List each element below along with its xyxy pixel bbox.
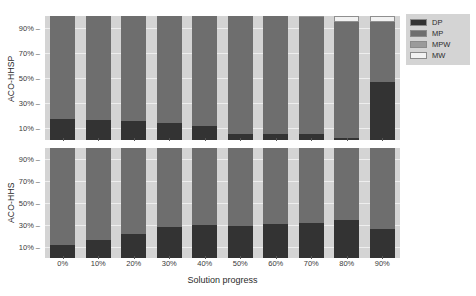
x-tick: 20% [121, 259, 146, 268]
legend-label: DP [432, 18, 442, 27]
legend-label: MP [432, 29, 443, 38]
stacked-bar[interactable] [370, 16, 395, 140]
bar-segment-mp [50, 148, 75, 245]
x-tick: 50% [228, 259, 253, 268]
x-tick-label: 50% [228, 259, 253, 268]
y-tick-label: 70%– [19, 177, 40, 186]
stacked-bar[interactable] [299, 148, 324, 258]
bar-segment-dp [157, 227, 182, 258]
legend-swatch-icon [410, 19, 427, 26]
bar-segment-dp [228, 226, 253, 258]
chart-figure: ACO-HHSP 90%–70%–50%–30%–10%– 0%10%20%30… [0, 0, 476, 296]
y-tick-label: 10%– [19, 243, 40, 252]
x-tick-label: 10% [86, 259, 111, 268]
x-tick-label: 80% [334, 259, 359, 268]
legend-item-mpw[interactable]: MPW [410, 39, 467, 50]
legend-swatch-icon [410, 41, 427, 48]
bar-segment-dp [121, 234, 146, 258]
x-tick: 90% [370, 259, 395, 268]
legend-swatch-icon [410, 52, 427, 59]
panel-aco-hhsp [45, 16, 400, 140]
stacked-bar[interactable] [228, 148, 253, 258]
bar-segment-mp [334, 148, 359, 220]
bar-segment-dp [370, 82, 395, 140]
x-tick-mark [169, 138, 170, 141]
x-tick-label: 0% [50, 259, 75, 268]
x-tick-mark [382, 138, 383, 141]
bar-segment-mp [86, 16, 111, 120]
bar-segment-mp [334, 22, 359, 137]
bar-segment-mp [370, 22, 395, 82]
stacked-bar[interactable] [334, 16, 359, 140]
legend-label: MPW [432, 40, 450, 49]
x-tick-mark [205, 138, 206, 141]
x-tick-mark [240, 138, 241, 141]
bar-group-bottom [45, 148, 400, 258]
x-tick-mark [134, 256, 135, 259]
stacked-bar[interactable] [299, 16, 324, 140]
bar-segment-mp [86, 148, 111, 240]
stacked-bar[interactable] [50, 16, 75, 140]
stacked-bar[interactable] [370, 148, 395, 258]
bar-segment-dp [370, 229, 395, 258]
y-axis-ticks-top: 90%–70%–50%–30%–10%– [2, 16, 40, 140]
stacked-bar[interactable] [228, 16, 253, 140]
plot-area-top [45, 16, 400, 140]
stacked-bar[interactable] [86, 148, 111, 258]
bar-segment-mp [157, 16, 182, 123]
legend-item-dp[interactable]: DP [410, 17, 467, 28]
x-tick: 40% [192, 259, 217, 268]
stacked-bar[interactable] [192, 16, 217, 140]
x-tick-mark [240, 256, 241, 259]
x-tick-mark [382, 256, 383, 259]
stacked-bar[interactable] [50, 148, 75, 258]
x-axis-title: Solution progress [45, 275, 400, 285]
x-tick-mark [276, 138, 277, 141]
bar-segment-mp [192, 148, 217, 225]
chart-legend: DPMPMPWMW [406, 14, 470, 65]
y-tick-label: 50%– [19, 74, 40, 83]
legend-swatch-icon [410, 30, 427, 37]
x-tick-mark [205, 256, 206, 259]
x-tick-mark [311, 138, 312, 141]
x-axis-ticks-bottom: 0%10%20%30%40%50%60%70%80%90% [45, 259, 400, 268]
y-tick-label: 70%– [19, 49, 40, 58]
legend-label: MW [432, 51, 445, 60]
x-tick: 60% [263, 259, 288, 268]
legend-item-mw[interactable]: MW [410, 50, 467, 61]
legend-item-mp[interactable]: MP [410, 28, 467, 39]
y-tick-label: 30%– [19, 98, 40, 107]
stacked-bar[interactable] [157, 148, 182, 258]
x-tick: 30% [157, 259, 182, 268]
stacked-bar[interactable] [263, 16, 288, 140]
x-tick-mark [276, 256, 277, 259]
x-tick-label: 40% [192, 259, 217, 268]
y-axis-ticks-bottom: 90%–70%–50%–30%–10%– [2, 148, 40, 258]
bar-segment-mp [121, 148, 146, 234]
bar-segment-dp [299, 223, 324, 258]
bar-segment-mp [228, 16, 253, 134]
x-tick: 10% [86, 259, 111, 268]
bar-segment-mp [263, 148, 288, 224]
stacked-bar[interactable] [121, 16, 146, 140]
bar-segment-mp [263, 16, 288, 134]
x-tick: 0% [50, 259, 75, 268]
x-tick-label: 30% [157, 259, 182, 268]
bar-segment-dp [192, 225, 217, 258]
stacked-bar[interactable] [121, 148, 146, 258]
bar-segment-dp [263, 224, 288, 258]
stacked-bar[interactable] [86, 16, 111, 140]
stacked-bar[interactable] [334, 148, 359, 258]
bar-segment-mp [370, 148, 395, 229]
stacked-bar[interactable] [157, 16, 182, 140]
stacked-bar[interactable] [263, 148, 288, 258]
x-tick: 80% [334, 259, 359, 268]
x-tick-mark [98, 256, 99, 259]
stacked-bar[interactable] [192, 148, 217, 258]
bar-segment-mp [157, 148, 182, 227]
x-tick-mark [98, 138, 99, 141]
x-tick-mark [134, 138, 135, 141]
bar-segment-mp [299, 148, 324, 223]
x-tick-label: 20% [121, 259, 146, 268]
y-tick-label: 90%– [19, 24, 40, 33]
